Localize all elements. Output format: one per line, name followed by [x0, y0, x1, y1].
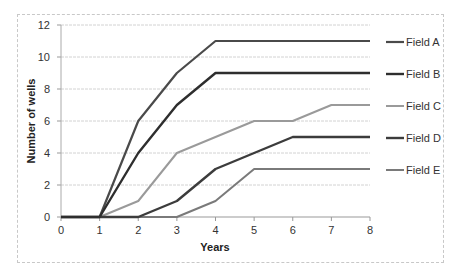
x-tick-label: 7 [328, 224, 334, 236]
y-tick-label: 4 [44, 147, 50, 159]
legend-label: Field B [406, 68, 440, 80]
x-tick-label: 3 [174, 224, 180, 236]
x-tick-label: 0 [58, 224, 64, 236]
x-tick-label: 4 [212, 224, 218, 236]
x-axis-ticks: 012345678 [58, 224, 373, 236]
series-line-field-e [61, 169, 370, 217]
legend-label: Field A [406, 36, 440, 48]
legend-label: Field E [406, 164, 440, 176]
line-chart: 024681012 012345678 Field AField BField … [0, 0, 461, 277]
y-tick-label: 8 [44, 83, 50, 95]
legend-label: Field D [406, 132, 441, 144]
series-lines [61, 41, 370, 217]
legend-label: Field C [406, 100, 441, 112]
legend: Field AField BField CField DField E [386, 36, 441, 176]
gridlines [61, 25, 370, 185]
y-tick-label: 2 [44, 179, 50, 191]
series-line-field-a [61, 41, 370, 217]
x-tick-label: 5 [251, 224, 257, 236]
legend-item-field-a: Field A [386, 36, 440, 48]
y-tick-label: 0 [44, 211, 50, 223]
x-tick-label: 6 [290, 224, 296, 236]
y-tick-label: 6 [44, 115, 50, 127]
x-tick-label: 1 [97, 224, 103, 236]
y-tick-label: 12 [38, 19, 50, 31]
legend-item-field-d: Field D [386, 132, 441, 144]
x-tick-label: 8 [367, 224, 373, 236]
legend-item-field-c: Field C [386, 100, 441, 112]
y-axis-ticks: 024681012 [38, 19, 50, 223]
x-axis-title: Years [200, 241, 229, 253]
legend-item-field-e: Field E [386, 164, 440, 176]
y-tick-label: 10 [38, 51, 50, 63]
x-tick-label: 2 [135, 224, 141, 236]
y-axis-title: Number of wells [25, 79, 37, 164]
axes [57, 25, 370, 221]
legend-item-field-b: Field B [386, 68, 440, 80]
